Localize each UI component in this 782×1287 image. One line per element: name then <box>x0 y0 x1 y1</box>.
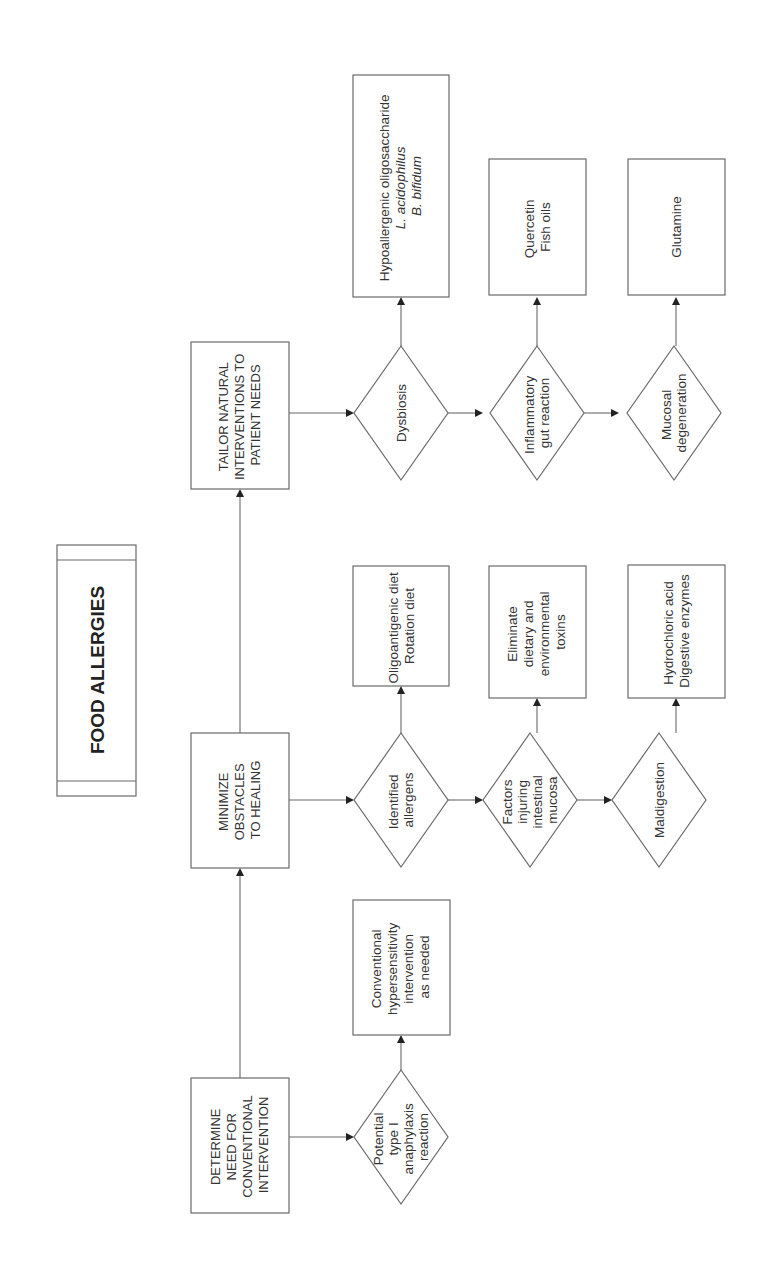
svg-text:Dysbiosis: Dysbiosis <box>394 384 409 442</box>
food-allergies-flowchart: FOOD ALLERGIES DETERMINE NEED FOR CONVEN… <box>0 0 782 1287</box>
arrowhead-icon <box>533 698 541 706</box>
main-step-3: TAILOR NATURAL INTERVENTIONS TO PATIENT … <box>191 342 289 489</box>
condition-diamond-2: Identified allergens <box>354 733 448 867</box>
arrowhead-icon <box>346 796 354 804</box>
svg-text:Identified allergens: Identified allergens <box>386 771 416 830</box>
condition-diamond-6: Inflammatory gut reaction <box>490 346 584 480</box>
arrowhead-icon <box>397 1035 405 1043</box>
main-step-1: DETERMINE NEED FOR CONVENTIONAL INTERVEN… <box>191 1078 289 1213</box>
condition-diamond-1: Potential type I anaphylaxis reaction <box>354 1070 448 1204</box>
arrowhead-icon <box>236 489 244 497</box>
svg-text:Factors injuring i: Factors injuring intestinal mucosa <box>500 771 560 828</box>
arrowhead-icon <box>533 297 541 305</box>
arrowhead-icon <box>346 409 354 417</box>
step-to-condition-connectors <box>289 409 354 1141</box>
svg-text:Hydrochloric acid Digest: Hydrochloric acid Digestive enzymes <box>661 574 692 688</box>
arrowhead-icon <box>475 796 483 804</box>
svg-text:Glutamine: Glutamine <box>669 196 684 258</box>
intervention-box-1: Conventional hypersensitivity interventi… <box>353 900 450 1035</box>
intervention-box-5: Hypoallergenic oligosaccharide L. acidop… <box>353 75 449 297</box>
condition-diamond-7: Mucosal degeneration <box>627 346 721 480</box>
intervention-box-2: Oligoantigenic diet Rotation diet <box>353 566 449 686</box>
intervention-box-6: Quercetin Fish oils <box>489 159 586 295</box>
arrowhead-icon <box>604 796 612 804</box>
arrowhead-icon <box>397 297 405 305</box>
condition-diamond-5: Dysbiosis <box>354 346 448 480</box>
intervention-box-4: Hydrochloric acid Digestive enzymes <box>628 565 725 698</box>
arrowhead-icon <box>397 686 405 694</box>
intervention-box-7: Glutamine <box>628 159 725 295</box>
svg-text:TAILOR NATURAL INTERVENT: TAILOR NATURAL INTERVENTIONS TO PATIENT … <box>216 350 263 480</box>
intervention-box-3: Eliminate dietary and environmental toxi… <box>489 566 586 698</box>
diagram-title: FOOD ALLERGIES <box>87 586 108 754</box>
condition-diamond-4: Maldigestion <box>612 733 706 867</box>
arrowhead-icon <box>611 409 619 417</box>
arrowhead-icon <box>475 409 483 417</box>
arrowhead-icon <box>672 698 680 706</box>
arrowhead-icon <box>236 868 244 876</box>
arrowhead-icon <box>672 297 680 305</box>
arrowhead-icon <box>346 1133 354 1141</box>
svg-text:DETERMINE NEED FOR: DETERMINE NEED FOR CONVENTIONAL INTERVEN… <box>208 1092 271 1198</box>
condition-diamond-3: Factors injuring intestinal mucosa <box>483 733 577 867</box>
svg-text:Quercetin Fish oils: Quercetin Fish oils <box>522 196 553 258</box>
svg-text:Inflammatory gut reactio: Inflammatory gut reaction <box>522 372 552 454</box>
main-step-2: MINIMIZE OBSTACLES TO HEALING <box>191 733 289 868</box>
title-box: FOOD ALLERGIES <box>57 545 136 796</box>
svg-text:Maldigestion: Maldigestion <box>652 762 667 838</box>
svg-text:MINIMIZE OBSTACLES: MINIMIZE OBSTACLES TO HEALING <box>216 760 263 841</box>
